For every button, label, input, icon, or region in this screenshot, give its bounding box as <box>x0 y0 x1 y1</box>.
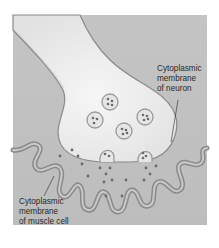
neuromuscular-junction-diagram: Cytoplasmic membrane of neuron Cytoplasm… <box>0 0 219 248</box>
vesicle <box>102 94 118 110</box>
vesicle <box>87 112 103 128</box>
vesicle <box>116 123 132 139</box>
vesicle <box>137 109 153 125</box>
